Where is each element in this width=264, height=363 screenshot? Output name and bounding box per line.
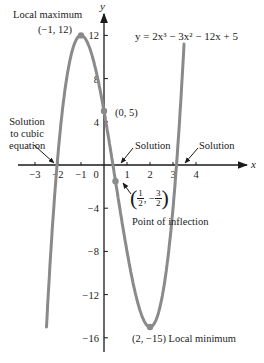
- local-max-coords: (−1, 12): [38, 24, 72, 35]
- y-tick-label: −12: [83, 290, 99, 301]
- inflection-coords: (12, −32): [130, 187, 169, 209]
- x-tick-label: 0: [93, 169, 98, 180]
- x-tick-label: −3: [29, 169, 40, 180]
- marked-point: [78, 32, 84, 38]
- local-max-title: Local maximum: [13, 9, 82, 20]
- marked-points: [78, 32, 153, 330]
- solution-left-line3: equation: [9, 140, 45, 152]
- y-axis-label: y: [99, 0, 105, 12]
- solution-right-arrow: [185, 148, 198, 163]
- inflection-title: Point of inflection: [132, 216, 208, 227]
- equation-label: y = 2x³ − 3x² − 12x + 5: [135, 31, 238, 42]
- solution-left-label: Solution to cubic equation: [9, 116, 45, 152]
- y-tick-label: −4: [88, 203, 100, 214]
- local-min-label: (2, −15) Local minimum: [132, 333, 236, 344]
- marked-point: [101, 108, 107, 114]
- x-tick-label: −1: [75, 169, 86, 180]
- cubic-function-graph: −3−2−101234 1284−4−8−12−16 y x: [0, 0, 264, 363]
- x-tick-label: 2: [147, 169, 152, 180]
- solution-left-line1: Solution: [9, 116, 45, 128]
- x-tick-label: 1: [124, 169, 129, 180]
- solution-right-label: Solution: [199, 140, 235, 151]
- solution-left-line2: to cubic: [9, 128, 45, 140]
- x-tick-label: 4: [193, 169, 199, 180]
- marked-point: [112, 178, 118, 184]
- solution-mid-label: Solution: [135, 140, 171, 151]
- marked-point: [147, 324, 153, 330]
- y-tick-label: −16: [83, 333, 99, 344]
- y-tick-label: 12: [89, 30, 100, 41]
- intercept-label: (0, 5): [115, 107, 138, 118]
- solution-mid-arrow: [121, 148, 133, 163]
- y-tick-label: 4: [94, 117, 100, 128]
- x-axis-label: x: [250, 158, 256, 170]
- y-tick-label: −8: [88, 246, 99, 257]
